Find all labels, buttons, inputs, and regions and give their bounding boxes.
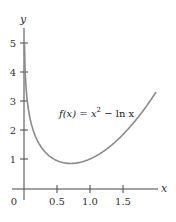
function-label: f(x) = x2 − ln x	[58, 106, 135, 119]
y-tick-label: 1	[10, 154, 16, 165]
x-ticks: 00.51.01.5	[11, 185, 131, 207]
x-tick-label: 1.5	[115, 196, 131, 207]
y-tick-label: 4	[10, 67, 16, 78]
y-tick-label: 3	[10, 96, 16, 107]
y-tick-label: 5	[10, 38, 16, 49]
function-label-prefix: f(x) = x	[58, 108, 97, 119]
y-axis-label: y	[19, 13, 27, 26]
y-tick-label: 2	[10, 125, 16, 136]
x-tick-label: 0	[11, 196, 17, 207]
x-tick-label: 0.5	[49, 196, 65, 207]
x-tick-label: 1.0	[82, 196, 98, 207]
chart: y x 00.51.01.5 12345 f(x) = x2 − ln x	[0, 0, 176, 222]
x-axis-label: x	[161, 182, 168, 195]
function-label-suffix: − ln x	[101, 108, 135, 119]
function-curve	[24, 43, 156, 164]
